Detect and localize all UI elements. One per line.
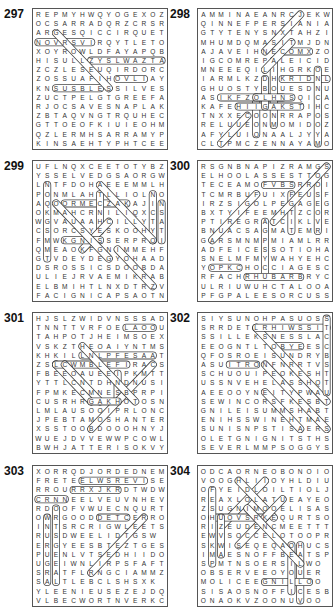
grid-letter: E — [104, 369, 113, 378]
grid-letter: D — [96, 424, 105, 433]
grid-letter: Z — [217, 522, 226, 531]
grid-letter: A — [225, 587, 234, 596]
grid-letter: L — [52, 162, 61, 171]
grid-letter: F — [157, 245, 166, 254]
grid-letter: D — [131, 467, 140, 476]
grid-letter: A — [122, 102, 131, 111]
grid-letter: D — [96, 378, 105, 387]
grid-letter: I — [261, 476, 270, 485]
grid-letter: C — [34, 495, 43, 504]
grid-letter: O — [52, 199, 61, 208]
grid-letter: S — [52, 84, 61, 93]
grid-letter: A — [157, 217, 166, 226]
grid-letter: T — [104, 541, 113, 550]
grid-letter: R — [140, 272, 149, 281]
grid-letter: A — [199, 47, 208, 56]
grid-letter: Y — [69, 10, 78, 19]
grid-letter: F — [87, 120, 96, 129]
grid-letter: P — [261, 236, 270, 245]
grid-letter: S — [208, 504, 217, 513]
grid-letter: R — [34, 485, 43, 494]
grid-letter: Z — [199, 504, 208, 513]
grid-letter: F — [34, 388, 43, 397]
grid-letter: R — [104, 559, 113, 568]
grid-letter: R — [217, 282, 226, 291]
grid-letter: S — [69, 263, 78, 272]
grid-letter: F — [278, 587, 287, 596]
grid-letter: A — [140, 351, 149, 360]
grid-letter: E — [234, 406, 243, 415]
grid-letter: O — [113, 10, 122, 19]
grid-letter: S — [199, 323, 208, 332]
grid-letter: I — [104, 120, 113, 129]
grid-letter: T — [199, 190, 208, 199]
grid-letter: N — [131, 378, 140, 387]
grid-letter: S — [34, 577, 43, 586]
grid-letter: S — [234, 424, 243, 433]
grid-letter: E — [104, 504, 113, 513]
grid-letter: R — [287, 74, 296, 83]
grid-letter: R — [322, 236, 331, 245]
grid-letter: G — [43, 559, 52, 568]
grid-letter: T — [199, 180, 208, 189]
grid-letter: G — [104, 171, 113, 180]
grid-letter: P — [104, 351, 113, 360]
grid-letter: C — [157, 111, 166, 120]
grid-letter: K — [278, 74, 287, 83]
grid-letter: O — [269, 596, 278, 605]
grid-letter: L — [296, 282, 305, 291]
grid-letter: C — [131, 19, 140, 28]
grid-letter: S — [157, 360, 166, 369]
grid-letter: C — [157, 65, 166, 74]
grid-letter: S — [34, 568, 43, 577]
grid-letter: F — [34, 369, 43, 378]
grid-letter: U — [217, 513, 226, 522]
grid-letter: H — [96, 332, 105, 341]
grid-letter: B — [313, 406, 322, 415]
grid-letter: H — [287, 254, 296, 263]
grid-letter: G — [296, 443, 305, 452]
grid-letter: U — [43, 397, 52, 406]
grid-letter: H — [140, 111, 149, 120]
grid-letter: M — [52, 388, 61, 397]
grid-letter: K — [34, 139, 43, 148]
grid-letter: M — [140, 180, 149, 189]
grid-letter: H — [87, 130, 96, 139]
grid-letter: C — [208, 369, 217, 378]
grid-letter: A — [122, 415, 131, 424]
grid-letter: P — [252, 19, 261, 28]
grid-letter: T — [87, 443, 96, 452]
grid-letter: L — [296, 476, 305, 485]
grid-letter: H — [43, 351, 52, 360]
grid-letter: E — [322, 217, 331, 226]
grid-letter: S — [278, 559, 287, 568]
grid-letter: I — [278, 263, 287, 272]
grid-letter: D — [122, 485, 131, 494]
grid-letter: R — [296, 513, 305, 522]
grid-letter: N — [217, 19, 226, 28]
grid-letter: O — [313, 282, 322, 291]
grid-letter: E — [252, 568, 261, 577]
grid-letter: D — [69, 434, 78, 443]
grid-letter: B — [261, 84, 270, 93]
grid-letter: U — [157, 323, 166, 332]
grid-letter: R — [34, 504, 43, 513]
grid-letter: C — [305, 56, 314, 65]
grid-letter: R — [140, 388, 149, 397]
grid-letter: O — [69, 424, 78, 433]
grid-letter: O — [78, 513, 87, 522]
grid-letter: U — [305, 190, 314, 199]
grid-letter: E — [52, 415, 61, 424]
grid-letter: G — [234, 434, 243, 443]
grid-letter: A — [131, 47, 140, 56]
grid-letter: S — [243, 513, 252, 522]
grid-letter: E — [52, 587, 61, 596]
grid-letter: N — [243, 434, 252, 443]
grid-letter: A — [104, 130, 113, 139]
grid-letter: R — [313, 226, 322, 235]
grid-letter: Y — [148, 424, 157, 433]
grid-letter: P — [113, 406, 122, 415]
grid-letter: L — [243, 443, 252, 452]
grid-letter: S — [157, 541, 166, 550]
grid-letter: R — [43, 568, 52, 577]
